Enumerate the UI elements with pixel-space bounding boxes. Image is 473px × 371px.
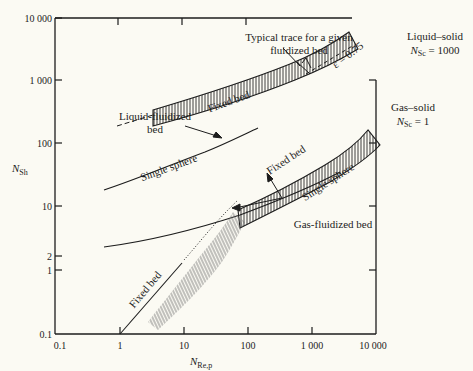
x-axis-title: NRe,p [189,355,212,370]
x-tick-10000: 10 000 [359,340,387,351]
gas-solid-nsc: NSc = 1 [396,115,430,129]
y-axis-title: NSh [11,162,28,177]
y-tick-1000: 1 000 [30,75,53,86]
x-tick-100: 100 [241,340,256,351]
typical-trace-label-1: Typical trace for a given [245,31,353,43]
y-tick-2: 2 [47,251,52,262]
liquid-fluidized-label-2: bed [147,123,163,135]
y-axis-ticks [55,18,62,270]
gas-fluidized-region [148,212,245,330]
liquid-fluidized-label-1: Liquid-fluidized [119,110,192,122]
x-tick-1: 1 [118,340,123,351]
y-tick-10000: 10 000 [25,13,53,24]
x-tick-labels: 0.1 1 10 100 1 000 10 000 [54,340,387,351]
x-tick-0.1: 0.1 [54,340,67,351]
x-axis-ticks-top [118,18,246,25]
gas-solid-band [238,130,380,228]
x-axis-ticks [120,327,312,334]
fixed-bed-low-label: Fixed bed [126,268,164,310]
gas-solid-label: Gas–solid [391,101,436,113]
single-sphere-liquid-label: Single sphere [139,151,199,183]
fixed-bed-gas-label: Fixed bed [264,142,308,176]
liquid-solid-label: Liquid–solid [407,30,464,42]
typical-trace-label-2: fluidized bed [270,44,328,56]
y-tick-labels: 10 000 1 000 100 10 2 1 0.1 [25,13,53,340]
y-tick-10: 10 [42,201,52,212]
y-axis-ticks-right [369,80,376,270]
y-tick-100: 100 [37,138,52,149]
gas-fluidized-label: Gas-fluidized bed [294,218,373,230]
y-tick-0.1: 0.1 [40,329,53,340]
x-tick-10: 10 [179,340,189,351]
liquid-solid-nsc: NSc = 1000 [409,44,460,58]
x-tick-1000: 1 000 [301,340,324,351]
chart-canvas: 10 000 1 000 100 10 2 1 0.1 0.1 1 10 100… [0,0,473,371]
y-tick-1: 1 [47,265,52,276]
